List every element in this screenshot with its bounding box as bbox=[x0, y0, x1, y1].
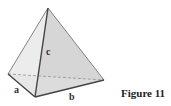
tetrahedron-figure: a b c Figure 11 bbox=[0, 0, 171, 106]
edge-label-b: b bbox=[69, 92, 75, 102]
edge-label-a: a bbox=[14, 85, 19, 95]
figure-caption: Figure 11 bbox=[121, 87, 165, 99]
edge-label-c: c bbox=[46, 47, 50, 57]
